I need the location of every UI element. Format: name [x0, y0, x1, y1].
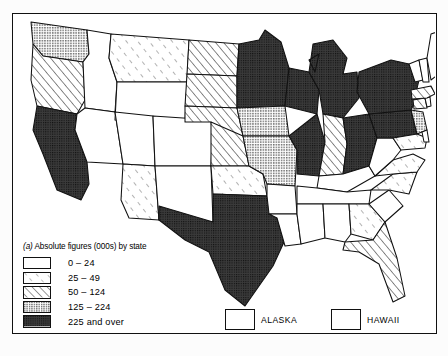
state-MN [237, 30, 289, 108]
legend-item[interactable]: 25 – 49 [23, 271, 203, 286]
state-CO [153, 116, 213, 166]
state-PA [369, 110, 417, 138]
state-AL [323, 204, 351, 242]
inset-label-alaska: ALASKA [261, 315, 297, 325]
map-figure: (a) Absolute figures (000s) by state 0 –… [0, 0, 448, 356]
legend: (a) Absolute figures (000s) by state 0 –… [23, 242, 203, 329]
state-IA [237, 106, 289, 136]
state-SD [185, 74, 237, 108]
state-ND [187, 40, 239, 76]
legend-item[interactable]: 125 – 224 [23, 300, 203, 315]
legend-title-text: Absolute figures (000s) by state [34, 242, 146, 251]
legend-panel-label: (a) [23, 242, 33, 251]
legend-title: (a) Absolute figures (000s) by state [23, 242, 203, 251]
state-MT [109, 34, 189, 82]
state-NY [357, 60, 419, 114]
inset-box-alaska [225, 309, 255, 330]
legend-swatch-50-124 [23, 286, 51, 298]
legend-label-50-124: 50 – 124 [68, 287, 105, 297]
legend-label-125-224: 125 – 224 [68, 302, 111, 312]
legend-item[interactable]: 0 – 24 [23, 256, 203, 271]
state-AZ [121, 164, 159, 220]
state-MS [297, 204, 325, 244]
legend-swatch-0-24 [23, 257, 51, 269]
legend-swatch-125-224 [23, 301, 51, 313]
legend-item[interactable]: 50 – 124 [23, 285, 203, 300]
state-AR [267, 184, 297, 214]
inset-box-hawaii [331, 309, 361, 330]
legend-label-0-24: 0 – 24 [68, 258, 95, 268]
inset-alaska[interactable]: ALASKA [225, 309, 297, 330]
inset-label-hawaii: HAWAII [367, 315, 400, 325]
legend-item[interactable]: 225 and over [23, 314, 203, 329]
inset-hawaii[interactable]: HAWAII [331, 309, 400, 330]
legend-label-25-49: 25 – 49 [68, 273, 100, 283]
legend-label-225-over: 225 and over [68, 317, 124, 327]
legend-swatch-25-49 [23, 272, 51, 284]
legend-swatch-225-over [23, 315, 51, 327]
figure-frame: (a) Absolute figures (000s) by state 0 –… [12, 13, 437, 334]
